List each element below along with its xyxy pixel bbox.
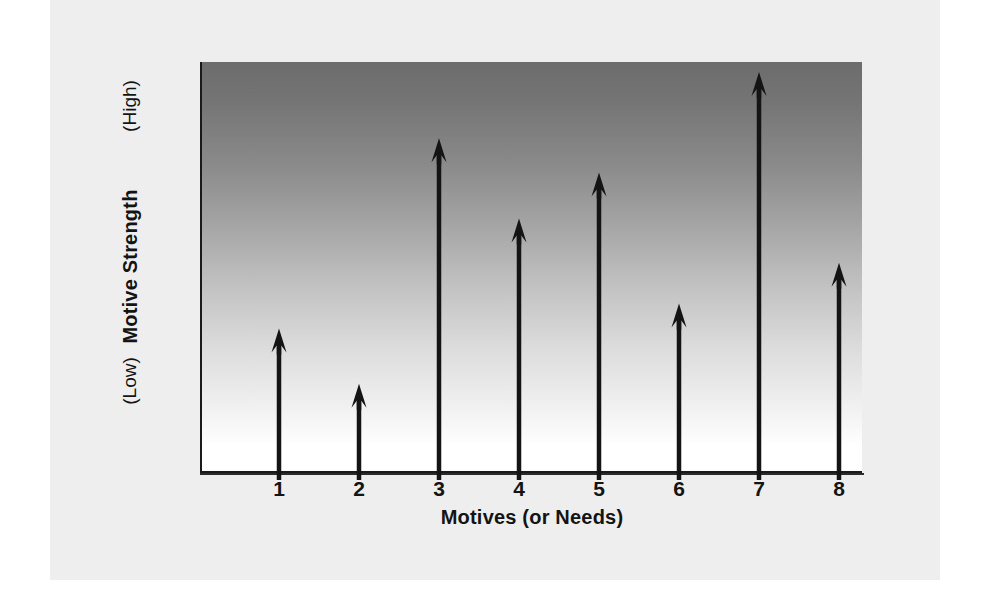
- x-tick-label-4: 4: [499, 478, 539, 500]
- chart-area: 1 2 3 4 5 6 7 8 Motives (or Needs) Motiv…: [50, 0, 940, 580]
- figure-card: 1 2 3 4 5 6 7 8 Motives (or Needs) Motiv…: [50, 0, 940, 580]
- x-axis-line: [200, 473, 864, 475]
- y-axis-low-label: (Low): [119, 296, 141, 466]
- x-tick-label-8: 8: [819, 478, 859, 500]
- x-tick-label-2: 2: [339, 478, 379, 500]
- x-tick-label-3: 3: [419, 478, 459, 500]
- x-tick-label-7: 7: [739, 478, 779, 500]
- plot-panel: [200, 62, 862, 473]
- y-axis-high-label: (High): [119, 13, 141, 199]
- x-axis-title: Motives (or Needs): [200, 506, 864, 529]
- x-tick-label-6: 6: [659, 478, 699, 500]
- x-tick-label-5: 5: [579, 478, 619, 500]
- x-tick-label-1: 1: [259, 478, 299, 500]
